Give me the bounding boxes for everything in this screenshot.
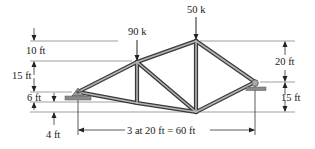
dim-label-10ft: 10 ft [26, 45, 46, 56]
dim-label-6ft: 6 ft [27, 92, 41, 103]
dim-label-15ft-left: 15 ft [12, 70, 32, 81]
truss-members [78, 41, 255, 112]
truss-diagram: 90 k 50 k 10 ft 15 ft 6 ft 4 ft 20 ft 15… [0, 0, 315, 149]
load-label-50k: 50 k [187, 4, 206, 15]
dim-label-15ft-right: 15 ft [281, 92, 301, 103]
dim-label-20ft: 20 ft [275, 56, 295, 67]
left-dimensions [34, 28, 54, 125]
dim-label-span: 3 at 20 ft = 60 ft [127, 125, 195, 136]
dim-label-4ft: 4 ft [46, 129, 60, 140]
load-label-90k: 90 k [128, 26, 147, 37]
truss-figure: 90 k 50 k 10 ft 15 ft 6 ft 4 ft 20 ft 15… [0, 0, 315, 149]
